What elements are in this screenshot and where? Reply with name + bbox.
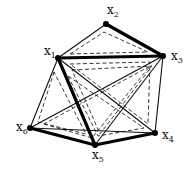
vertex-x4: [152, 130, 158, 136]
vertex-x3: [160, 53, 166, 59]
vertex-x1: [55, 55, 61, 61]
bold-edge-x1-x3: [58, 56, 163, 58]
vertex-x2: [103, 21, 109, 27]
edge-x3-x6: [30, 56, 163, 128]
edge-x3-x4: [155, 56, 163, 133]
vertex-x6: [27, 125, 33, 131]
label-x3: x3: [171, 49, 183, 65]
label-x2: x2: [107, 3, 119, 19]
graph-diagram: x1x2x3x4x5x6: [0, 0, 190, 173]
edge-x1-x6: [30, 58, 58, 128]
loop-x1-x2-x3: [70, 32, 148, 54]
label-x1: x1: [44, 44, 56, 60]
bold-edge-x2-x3: [106, 24, 163, 56]
label-x5: x5: [92, 148, 104, 164]
label-x6: x6: [16, 120, 28, 136]
label-x4: x4: [162, 128, 174, 144]
dashed-loops: [38, 32, 152, 138]
